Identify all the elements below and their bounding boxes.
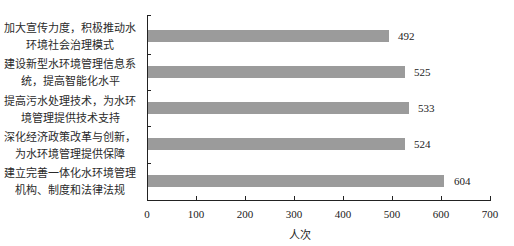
x-tick-label-0: 0	[127, 208, 167, 220]
category-label-2-line-1: 建设新型水环境管理信息系	[0, 56, 140, 73]
x-axis-title: 人次	[280, 226, 320, 242]
bar-3	[148, 102, 409, 114]
x-axis-tick	[245, 196, 246, 200]
category-label-4-line-2: 为水环境管理提供保障	[0, 146, 140, 163]
x-axis-tick	[490, 196, 491, 200]
x-axis-tick	[343, 196, 344, 200]
category-label-1-line-1: 加大宣传力度，积极推动水	[0, 20, 140, 37]
category-label-4-line-1: 深化经济政策改革与创新，	[0, 129, 140, 146]
x-tick-label-700: 700	[470, 208, 510, 220]
bar-4	[148, 138, 405, 150]
bar-4-value-label: 524	[414, 138, 431, 150]
x-axis-tick	[441, 196, 442, 200]
category-label-1-line-2: 环境社会治理模式	[0, 37, 140, 54]
x-tick-label-400: 400	[323, 208, 363, 220]
y-axis-tick	[148, 126, 151, 127]
bar-3-value-label: 533	[418, 102, 435, 114]
horizontal-bar-chart: 加大宣传力度，积极推动水 环境社会治理模式 建设新型水环境管理信息系 统，提高智…	[0, 0, 514, 246]
x-axis-tick	[196, 196, 197, 200]
x-axis-tick	[294, 196, 295, 200]
x-axis-line	[147, 200, 491, 201]
category-label-4: 深化经济政策改革与创新， 为水环境管理提供保障	[0, 129, 140, 163]
x-tick-label-600: 600	[421, 208, 461, 220]
category-label-3-line-1: 提高污水处理技术，为水环	[0, 93, 140, 110]
category-label-5-line-1: 建立完善一体化水环境管理	[0, 165, 140, 182]
category-label-3: 提高污水处理技术，为水环 境管理提供技术支持	[0, 93, 140, 127]
x-tick-label-100: 100	[176, 208, 216, 220]
category-label-3-line-2: 境管理提供技术支持	[0, 110, 140, 127]
category-label-5-line-2: 机构、制度和法律法规	[0, 182, 140, 199]
category-label-2: 建设新型水环境管理信息系 统，提高智能化水平	[0, 56, 140, 90]
bar-1-value-label: 492	[398, 30, 415, 42]
y-axis-tick	[148, 54, 151, 55]
x-tick-label-300: 300	[274, 208, 314, 220]
bar-2-value-label: 525	[414, 66, 431, 78]
x-tick-label-200: 200	[225, 208, 265, 220]
y-axis-line	[147, 15, 148, 201]
x-axis-tick	[392, 196, 393, 200]
category-label-5: 建立完善一体化水环境管理 机构、制度和法律法规	[0, 165, 140, 199]
x-tick-label-500: 500	[372, 208, 412, 220]
bar-5-value-label: 604	[454, 175, 471, 187]
y-axis-tick	[148, 163, 151, 164]
bar-2	[148, 66, 405, 78]
bar-5	[148, 175, 444, 187]
y-axis-tick	[148, 90, 151, 91]
category-label-1: 加大宣传力度，积极推动水 环境社会治理模式	[0, 20, 140, 54]
category-label-2-line-2: 统，提高智能化水平	[0, 73, 140, 90]
bar-1	[148, 30, 389, 42]
y-axis-top-tick	[147, 15, 151, 16]
